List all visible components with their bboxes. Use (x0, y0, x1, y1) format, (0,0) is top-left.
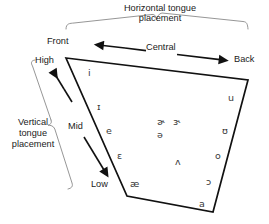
vowel-symbol-close-mid-back-rounded: o (215, 151, 221, 161)
low-label: Low (91, 180, 108, 190)
vowel-symbol-close-mid-front-unrounded: e (106, 126, 112, 136)
vowel-symbol-close-front-unrounded: i (88, 68, 91, 78)
vowel-symbol-open-mid-front-unrounded: ɛ (117, 151, 122, 161)
horizontal-caption-line-2: placement (104, 14, 216, 24)
horizontal-tongue-placement-caption: Horizontal tongue placement (104, 4, 216, 23)
central-label: Central (146, 43, 176, 53)
diagram-canvas (0, 0, 269, 224)
vertical-caption-line-3: placement (2, 139, 64, 150)
vowel-chart-diagram: Horizontal tongue placement Front Centra… (0, 0, 269, 224)
vowel-symbol-close-back-rounded: u (228, 93, 234, 103)
vowel-symbol-r-colored-schwa: ɚ (157, 117, 165, 127)
vertical-caption-line-1: Vertical (2, 117, 64, 128)
vowel-symbol-near-close-back-rounded: ʊ (222, 126, 228, 136)
vowel-symbol-open-mid-back-rounded: ɔ (206, 177, 211, 187)
vertical-caption-line-2: tongue (2, 128, 64, 139)
vowel-symbol-near-close-front-unrounded: ɪ (97, 102, 101, 112)
vertical-tongue-placement-caption: Vertical tongue placement (2, 117, 64, 150)
vowel-symbol-near-open-front-unrounded: æ (130, 179, 139, 189)
back-label: Back (234, 55, 254, 65)
front-label: Front (47, 37, 68, 47)
mid-label: Mid (68, 122, 83, 132)
high-label: High (35, 56, 54, 66)
vowel-symbol-open-front-unrounded: a (199, 199, 205, 209)
vowel-symbol-r-colored-open-mid-central: ɝ (173, 117, 180, 127)
vowel-symbol-open-mid-back-unrounded: ʌ (175, 157, 181, 167)
vowel-symbol-schwa: ə (157, 130, 163, 140)
